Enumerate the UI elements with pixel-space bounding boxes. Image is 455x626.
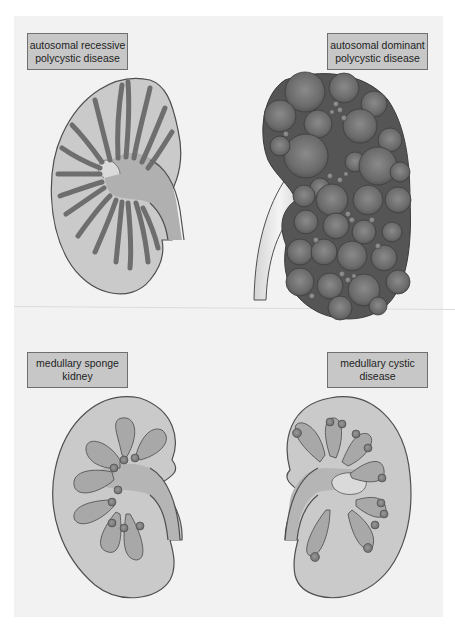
arpkd-kidney bbox=[51, 78, 184, 293]
label-arpkd-line1: autosomal recessive bbox=[30, 39, 126, 52]
label-arpkd-line2: polycystic disease bbox=[35, 52, 120, 65]
label-adpkd: autosomal dominant polycystic disease bbox=[327, 33, 428, 70]
kidney-illustrations bbox=[0, 0, 455, 626]
label-arpkd: autosomal recessive polycystic disease bbox=[27, 33, 128, 70]
label-msk-line2: kidney bbox=[62, 370, 92, 383]
label-msk: medullary sponge kidney bbox=[27, 352, 128, 388]
label-adpkd-line1: autosomal dominant bbox=[330, 39, 425, 52]
label-mcd-line1: medullary cystic bbox=[340, 357, 415, 370]
label-mcd-line2: disease bbox=[359, 370, 395, 383]
msk-kidney bbox=[53, 397, 182, 598]
label-mcd: medullary cystic disease bbox=[327, 352, 428, 388]
adpkd-kidney bbox=[254, 72, 411, 320]
mcd-kidney bbox=[285, 397, 411, 598]
label-adpkd-line2: polycystic disease bbox=[335, 52, 420, 65]
label-msk-line1: medullary sponge bbox=[36, 357, 119, 370]
